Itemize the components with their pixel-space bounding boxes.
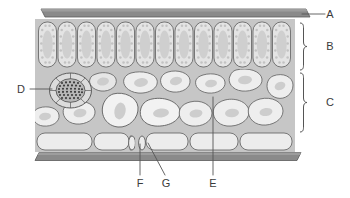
label-c: C [326,96,334,108]
label-e: E [209,177,216,189]
palisade-cell [195,22,213,67]
spongy-cell [267,75,293,99]
spongy-cell [179,101,212,126]
label-b: B [326,40,333,52]
label-a: A [326,8,334,20]
spongy-cell [140,98,180,126]
spongy-cell [229,69,262,91]
bracket-b [300,23,307,70]
spongy-cell [124,72,158,93]
label-f: F [137,177,144,189]
vascular-bundle [50,73,92,108]
spongy-cell [213,99,249,126]
palisade-cell [117,22,135,67]
palisade-cell [253,22,271,67]
lower-epidermis-cell [190,133,238,150]
upper-cuticle [40,9,310,17]
spongy-cell [196,74,226,93]
lower-epidermis-layer [37,133,292,151]
spongy-cell [33,107,59,126]
spongy-cell [90,73,117,91]
lower-epidermis-cell [37,133,92,150]
guard-cell [129,136,136,150]
palisade-cell [58,22,76,67]
palisade-cell [234,22,252,67]
lower-epidermis-cell [146,133,188,150]
spongy-cell [248,98,283,125]
palisade-cell [214,22,232,67]
spongy-cell [161,71,191,92]
palisade-cell [136,22,154,67]
palisade-cell [97,22,115,67]
palisade-cell [78,22,96,67]
lower-cuticle [35,153,301,161]
bracket-c [300,73,307,132]
lower-epidermis-cell [94,133,129,150]
palisade-cell [156,22,174,67]
label-d: D [17,83,25,95]
diagram-canvas: A B C D E F G [0,0,350,198]
palisade-cell [273,22,291,67]
label-g: G [162,177,171,189]
palisade-cell [39,22,57,67]
leaf-cross-section-diagram: A B C D E F G [0,0,350,198]
lower-epidermis-cell [240,133,292,150]
palisade-cell [175,22,193,67]
